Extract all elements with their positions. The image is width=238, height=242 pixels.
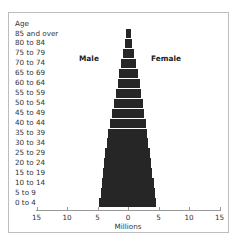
x-tick bbox=[37, 207, 38, 211]
bar-female bbox=[128, 89, 141, 98]
x-tick bbox=[67, 207, 68, 211]
age-label: 40 to 44 bbox=[15, 118, 45, 127]
bar-male bbox=[105, 148, 128, 157]
age-label: 20 to 24 bbox=[15, 158, 45, 167]
bar-female bbox=[128, 168, 152, 177]
x-tick-label: 5 bbox=[156, 213, 161, 222]
x-tick-label: 0 bbox=[126, 213, 131, 222]
age-label: 55 to 59 bbox=[15, 88, 45, 97]
age-label: 70 to 74 bbox=[15, 58, 45, 67]
bar-female bbox=[128, 178, 154, 187]
age-label: 10 to 14 bbox=[15, 178, 45, 187]
age-label: 30 to 34 bbox=[15, 138, 45, 147]
bar-male bbox=[101, 188, 128, 197]
bar-male bbox=[104, 158, 128, 167]
bar-male bbox=[116, 89, 128, 98]
bar-male bbox=[103, 168, 128, 177]
x-tick-label: 10 bbox=[62, 213, 71, 222]
bar-female bbox=[128, 148, 150, 157]
bar-male bbox=[99, 198, 128, 207]
bar-female bbox=[128, 49, 134, 58]
bar-female bbox=[128, 59, 136, 68]
age-label: 85 and over bbox=[15, 29, 58, 38]
y-axis-title: Age bbox=[15, 19, 29, 28]
age-label: 45 to 49 bbox=[15, 108, 45, 117]
bar-female bbox=[128, 198, 156, 207]
bar-female bbox=[128, 99, 143, 108]
bar-female bbox=[128, 29, 131, 38]
bar-male bbox=[108, 129, 128, 138]
age-label: 0 to 4 bbox=[15, 198, 36, 207]
age-label: 35 to 39 bbox=[15, 128, 45, 137]
age-label: 80 to 84 bbox=[15, 38, 45, 47]
legend-male: Male bbox=[79, 54, 99, 63]
legend-female: Female bbox=[151, 54, 181, 63]
bar-male bbox=[119, 69, 128, 78]
x-tick-label: 15 bbox=[32, 213, 41, 222]
bar-female bbox=[128, 79, 140, 88]
age-label: 60 to 64 bbox=[15, 78, 45, 87]
age-label: 50 to 54 bbox=[15, 98, 45, 107]
x-axis-label: Millions bbox=[115, 222, 142, 231]
x-tick bbox=[189, 207, 190, 211]
x-tick bbox=[220, 207, 221, 211]
x-tick bbox=[98, 207, 99, 211]
x-tick-label: 10 bbox=[184, 213, 193, 222]
age-label: 5 to 9 bbox=[15, 188, 36, 197]
bar-male bbox=[118, 79, 128, 88]
x-tick bbox=[159, 207, 160, 211]
bar-male bbox=[121, 59, 128, 68]
bar-female bbox=[128, 69, 138, 78]
age-label: 75 to 79 bbox=[15, 48, 45, 57]
bar-female bbox=[128, 39, 132, 48]
x-tick-label: 5 bbox=[95, 213, 100, 222]
bar-female bbox=[128, 109, 144, 118]
bar-male bbox=[114, 99, 128, 108]
age-label: 65 to 69 bbox=[15, 68, 45, 77]
bar-female bbox=[128, 129, 147, 138]
age-label: 15 to 19 bbox=[15, 168, 45, 177]
bar-female bbox=[128, 188, 155, 197]
bar-male bbox=[112, 109, 128, 118]
bar-male bbox=[102, 178, 128, 187]
age-label: 25 to 29 bbox=[15, 148, 45, 157]
x-tick-label: 15 bbox=[215, 213, 224, 222]
bar-female bbox=[128, 119, 146, 128]
bar-male bbox=[107, 138, 128, 147]
bar-female bbox=[128, 138, 148, 147]
bar-female bbox=[128, 158, 151, 167]
bar-male bbox=[110, 119, 128, 128]
x-tick bbox=[128, 207, 129, 211]
